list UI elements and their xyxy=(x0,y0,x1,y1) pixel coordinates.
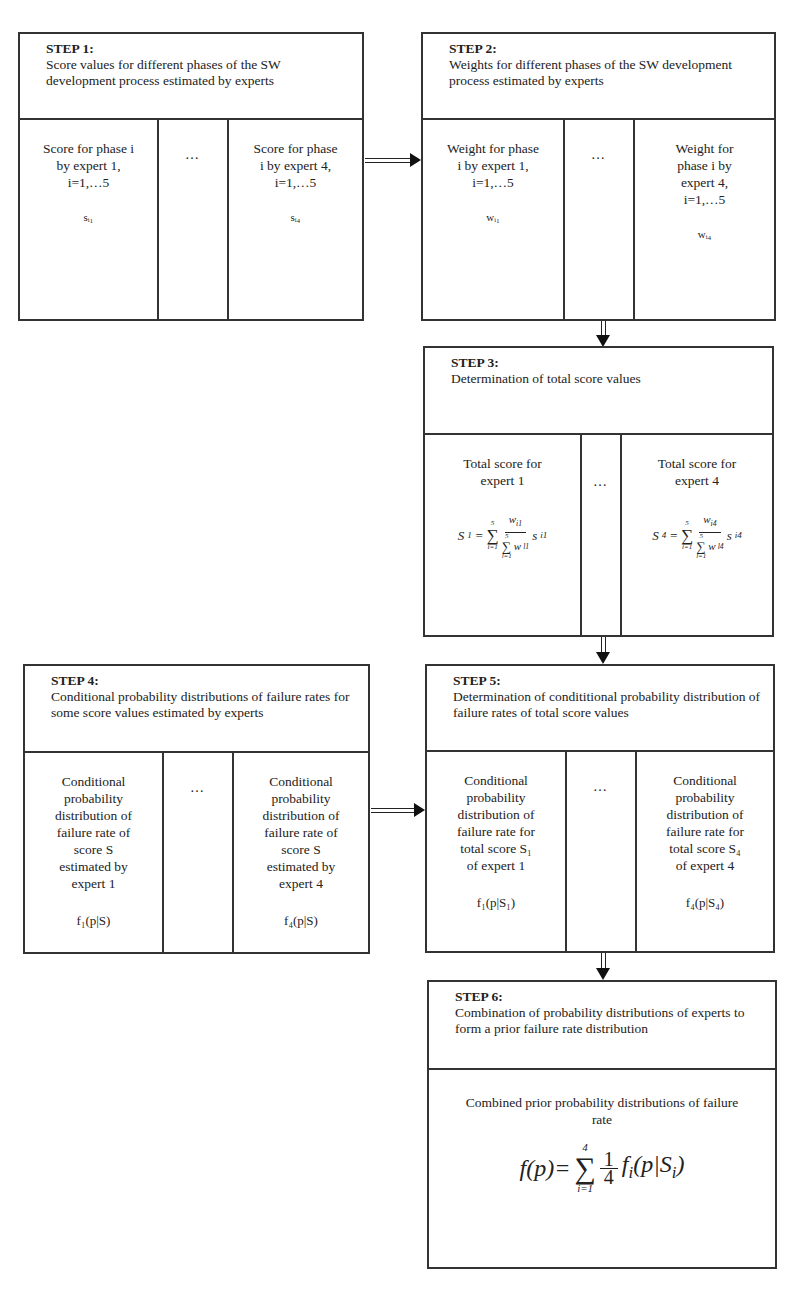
tail-sub: i1 xyxy=(540,527,547,544)
step-1-header: STEP 1: Score values for different phase… xyxy=(20,34,362,120)
sum-lower: i=1 xyxy=(577,1183,593,1194)
step-2-col-expert-1: Weight for phase i by expert 1, i=1,…5 w… xyxy=(423,120,563,319)
den-sub: l4 xyxy=(718,538,724,555)
step-4-col-ellipsis: … xyxy=(162,753,234,952)
summation-symbol: 5∑l=1 xyxy=(502,533,512,560)
step-4-header: STEP 4: Conditional probability distribu… xyxy=(25,666,368,753)
formula-lhs-sub: 4 xyxy=(662,527,667,544)
formula-lhs: S xyxy=(652,527,659,544)
step-2-box: STEP 2: Weights for different phases of … xyxy=(421,32,776,321)
arrow-step5-to-step6 xyxy=(601,953,606,969)
step-3-title: Determination of total score values xyxy=(451,371,641,386)
step-1-col-expert-1: Score for phase i by expert 1, i=1,…5 sᵢ… xyxy=(20,120,157,319)
ellipsis: … xyxy=(565,120,633,163)
step-5-label: STEP 5: xyxy=(453,673,763,689)
step-1-col-1-text: Score for phase i by expert 1, i=1,…5 xyxy=(20,120,157,191)
den-lower: l=1 xyxy=(502,553,512,560)
equals: = xyxy=(475,527,484,544)
step-6-header: STEP 6: Combination of probability distr… xyxy=(429,982,775,1070)
step-3-col-1-text: Total score for expert 1 xyxy=(425,435,580,489)
step-3-box: STEP 3: Determination of total score val… xyxy=(423,346,774,637)
step-5-header: STEP 5: Determination of condititional p… xyxy=(427,666,773,752)
arrow-step4-to-step5 xyxy=(371,808,415,813)
step-6-body: Combined prior probability distributions… xyxy=(429,1070,775,1267)
rhs-close: ) xyxy=(676,1151,684,1177)
den-lower: l=1 xyxy=(696,553,706,560)
step-1-label: STEP 1: xyxy=(46,41,352,57)
fraction-numerator: wi4 xyxy=(699,511,720,533)
summation-symbol: 5∑l=1 xyxy=(696,533,706,560)
ellipsis: … xyxy=(164,753,232,796)
arrow-step1-to-step2 xyxy=(365,158,411,163)
step-4-col-3-text: Conditional probability distribution of … xyxy=(234,753,368,892)
formula-lhs-sub: 1 xyxy=(467,527,472,544)
step-4-col-1-symbol: f₁(p|S) xyxy=(25,912,162,929)
step-5-col-expert-4: Conditional probability distribution of … xyxy=(637,752,773,951)
step-1-col-1-symbol: sᵢ₁ xyxy=(20,209,157,226)
tail-var: s xyxy=(532,527,537,544)
num-var: w xyxy=(703,513,710,525)
step-4-box: STEP 4: Conditional probability distribu… xyxy=(23,664,370,954)
one-quarter-fraction: 14 xyxy=(600,1151,618,1186)
ellipsis: … xyxy=(159,120,227,163)
step-3-col-expert-1: Total score for expert 1 S1= 5∑i=1 wi1 5… xyxy=(425,435,580,635)
fraction-denominator: 5∑l=1wl1 xyxy=(502,533,530,560)
step-3-col-3-text: Total score for expert 4 xyxy=(622,435,772,489)
step-5-col-1-symbol: f₁(p|S₁) xyxy=(427,894,565,911)
step-3-header: STEP 3: Determination of total score val… xyxy=(425,348,772,435)
total-score-formula-expert-1: S1= 5∑i=1 wi1 5∑l=1wl1 si1 xyxy=(425,511,580,560)
step-2-header: STEP 2: Weights for different phases of … xyxy=(423,34,774,120)
summation-symbol: 4∑i=1 xyxy=(574,1142,595,1194)
step-2-col-3-symbol: wᵢ₄ xyxy=(635,226,774,243)
num-sub: i1 xyxy=(516,519,522,528)
step-2-col-1-text: Weight for phase i by expert 1, i=1,…5 xyxy=(423,120,563,191)
step-1-col-3-symbol: sᵢ₄ xyxy=(229,209,362,226)
step-6-body-text: Combined prior probability distributions… xyxy=(429,1070,775,1128)
step-3-col-ellipsis: … xyxy=(580,435,622,635)
step-6-title: Combination of probability distributions… xyxy=(455,1005,744,1036)
step-4-title: Conditional probability distributions of… xyxy=(51,689,349,720)
total-score-formula-expert-4: S4= 5∑i=1 wi4 5∑l=1wl4 si4 xyxy=(622,511,772,560)
step-5-col-3-symbol: f₄(p|S₄) xyxy=(637,894,773,911)
step-3-col-expert-4: Total score for expert 4 S4= 5∑i=1 wi4 5… xyxy=(622,435,772,635)
fraction-denominator: 4 xyxy=(604,1169,614,1186)
step-1-col-3-text: Score for phase i by expert 4, i=1,…5 xyxy=(229,120,362,191)
tail-var: s xyxy=(727,527,732,544)
step-2-title: Weights for different phases of the SW d… xyxy=(449,57,732,88)
sum-lower: i=1 xyxy=(682,544,692,551)
step-1-box: STEP 1: Score values for different phase… xyxy=(18,32,364,321)
summation-symbol: 5∑i=1 xyxy=(681,520,693,551)
num-sub: i4 xyxy=(711,519,717,528)
step-4-col-expert-1: Conditional probability distribution of … xyxy=(25,753,162,952)
summation-symbol: 5∑i=1 xyxy=(487,520,499,551)
tail-sub: i4 xyxy=(735,527,742,544)
step-1-title: Score values for different phases of the… xyxy=(46,57,281,88)
combined-prior-formula: f(p)= 4∑i=1 14 fi(p|Si) xyxy=(429,1142,775,1194)
sum-lower: i=1 xyxy=(488,544,498,551)
den-var: w xyxy=(514,538,521,555)
rhs-arg: (p|S xyxy=(633,1151,672,1177)
step-6-label: STEP 6: xyxy=(455,989,765,1005)
step-2-col-ellipsis: … xyxy=(563,120,635,319)
step-5-col-3-text: Conditional probability distribution of … xyxy=(637,752,773,874)
ellipsis: … xyxy=(582,435,620,490)
formula-lhs: S xyxy=(458,527,465,544)
step-5-col-1-text: Conditional probability distribution of … xyxy=(427,752,565,874)
den-var: w xyxy=(708,538,715,555)
step-1-col-expert-4: Score for phase i by expert 4, i=1,…5 sᵢ… xyxy=(229,120,362,319)
step-4-col-1-text: Conditional probability distribution of … xyxy=(25,753,162,892)
weight-fraction: wi4 5∑l=1wl4 xyxy=(696,511,724,560)
step-4-col-expert-4: Conditional probability distribution of … xyxy=(234,753,368,952)
step-3-label: STEP 3: xyxy=(451,355,762,371)
step-5-col-expert-1: Conditional probability distribution of … xyxy=(427,752,565,951)
step-2-col-expert-4: Weight for phase i by expert 4, i=1,…5 w… xyxy=(635,120,774,319)
step-2-col-3-text: Weight for phase i by expert 4, i=1,…5 xyxy=(635,120,774,208)
step-6-box: STEP 6: Combination of probability distr… xyxy=(427,980,777,1269)
step-1-col-ellipsis: … xyxy=(157,120,229,319)
equals: = xyxy=(669,527,678,544)
formula-lhs: f(p)= xyxy=(520,1160,571,1177)
fraction-denominator: 5∑l=1wl4 xyxy=(696,533,724,560)
ellipsis: … xyxy=(567,752,635,795)
num-var: w xyxy=(509,513,516,525)
step-5-title: Determination of condititional probabili… xyxy=(453,689,760,720)
